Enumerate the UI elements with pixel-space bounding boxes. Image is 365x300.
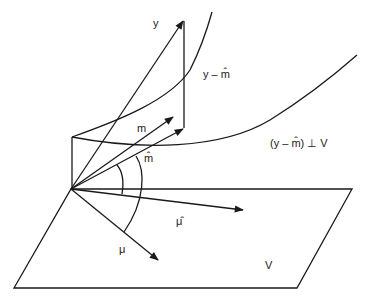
label-orthogonality: (y – m̂) ⊥ V	[270, 136, 328, 149]
vector-m-hat	[71, 129, 183, 189]
vector-y	[71, 21, 183, 189]
vector-mu	[71, 189, 158, 260]
label-mu-hat: μ̂	[176, 215, 184, 227]
projection-diagram: y y – m̂ m m̂ (y – m̂) ⊥ V μ̂ μ V	[0, 0, 365, 300]
label-m-hat: m̂	[144, 151, 153, 164]
plane-v	[14, 189, 352, 288]
label-mu: μ	[119, 243, 125, 255]
angle-arc-outer	[124, 156, 142, 232]
label-y: y	[153, 17, 159, 29]
vector-mu-hat	[71, 189, 243, 210]
label-plane-v: V	[265, 259, 273, 271]
label-residual: y – m̂	[203, 67, 230, 80]
arc-upper	[72, 12, 212, 137]
label-m: m	[137, 122, 146, 134]
